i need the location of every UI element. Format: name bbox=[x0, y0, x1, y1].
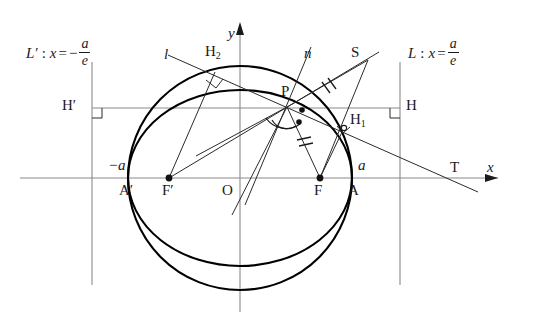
point-label-o: O bbox=[222, 183, 233, 198]
point-label-a-prime: A′ bbox=[119, 183, 133, 198]
tick-pf-b bbox=[299, 143, 313, 146]
point-label-a: A bbox=[348, 183, 359, 198]
perpendicular-f-h1 bbox=[320, 128, 344, 178]
directrix-left-sign: − bbox=[69, 45, 77, 62]
point-label-h2-base: H bbox=[205, 43, 216, 59]
angle-arc-inner bbox=[272, 120, 296, 129]
directrix-left-fraction: a e bbox=[79, 37, 90, 68]
normal-line-label: n bbox=[304, 46, 312, 61]
right-angle-h bbox=[390, 108, 400, 118]
point-label-h1-subscript: 1 bbox=[361, 118, 366, 129]
perpendicular-fprime-h2 bbox=[169, 72, 215, 178]
focal-radius-f-p bbox=[287, 107, 320, 178]
directrix-left-equals: = bbox=[58, 45, 66, 62]
right-angle-h-prime bbox=[92, 108, 102, 118]
point-dot-fprime bbox=[166, 175, 173, 182]
point-dots bbox=[166, 107, 324, 181]
directrix-right-numerator: a bbox=[448, 37, 459, 52]
construction-lines bbox=[168, 47, 478, 215]
directrix-right-equals: = bbox=[437, 45, 445, 62]
point-label-h1-base: H bbox=[350, 111, 361, 127]
point-label-s: S bbox=[351, 45, 359, 60]
directrix-left-colon: : bbox=[40, 45, 48, 62]
ray-p-lower-left bbox=[196, 107, 287, 156]
directrix-right-equation: L : x = a e bbox=[408, 38, 459, 69]
x-axis-arrowhead bbox=[485, 174, 498, 182]
directrix-left-denominator: e bbox=[80, 53, 90, 68]
point-label-h2-subscript: 2 bbox=[216, 50, 221, 61]
directrix-left-numerator: a bbox=[79, 37, 90, 52]
x-axis-label: x bbox=[487, 160, 494, 175]
directrix-left-name: L′ bbox=[26, 45, 38, 62]
angle-dot-lower bbox=[296, 119, 302, 125]
y-axis-label: y bbox=[228, 26, 235, 41]
tick-pf-a bbox=[297, 137, 311, 140]
vertex-value-right: a bbox=[358, 158, 366, 173]
point-label-t: T bbox=[450, 160, 459, 175]
vertex-value-left: −a bbox=[108, 158, 126, 173]
geometry-figure: L′ : x = − a e L : x = a e y x l n P S H… bbox=[0, 0, 536, 328]
directrix-right-colon: : bbox=[418, 45, 426, 62]
directrix-left-equation: L′ : x = − a e bbox=[26, 38, 90, 69]
point-label-h1: H1 bbox=[350, 112, 366, 129]
point-label-f-prime: F′ bbox=[162, 183, 174, 198]
directrix-right-variable: x bbox=[429, 45, 436, 62]
directrix-left-variable: x bbox=[50, 45, 57, 62]
point-dot-f bbox=[317, 175, 324, 182]
angle-dot-upper bbox=[299, 107, 305, 113]
point-label-h-prime: H′ bbox=[62, 98, 76, 113]
directrix-right-fraction: a e bbox=[448, 37, 459, 68]
point-dot-h1 bbox=[341, 125, 346, 130]
directrix-right-denominator: e bbox=[448, 53, 458, 68]
y-axis-arrowhead bbox=[236, 22, 244, 35]
point-label-p: P bbox=[281, 84, 289, 99]
tangent-line-label: l bbox=[164, 47, 168, 62]
point-label-h2: H2 bbox=[205, 44, 221, 61]
point-label-h: H bbox=[406, 98, 417, 113]
point-label-f: F bbox=[314, 183, 322, 198]
directrix-right-name: L bbox=[408, 45, 416, 62]
